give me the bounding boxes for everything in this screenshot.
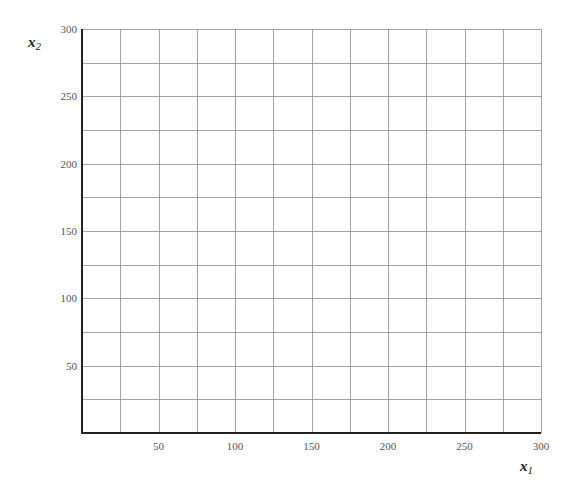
x-tick-label: 250 bbox=[456, 440, 473, 452]
y-axis-label: x2 bbox=[27, 34, 42, 52]
y-tick-label: 50 bbox=[66, 360, 78, 372]
y-tick-label: 200 bbox=[61, 158, 78, 170]
y-tick-label: 250 bbox=[61, 90, 78, 102]
graph-paper-chart: 50100150200250300 50100150200250300 x2 x… bbox=[0, 0, 573, 497]
x-tick-label: 50 bbox=[153, 440, 165, 452]
y-tick-label: 100 bbox=[61, 292, 78, 304]
y-tick-label: 300 bbox=[61, 23, 78, 35]
x-tick-label: 100 bbox=[227, 440, 244, 452]
x-tick-label: 150 bbox=[303, 440, 320, 452]
x-tick-label: 300 bbox=[533, 440, 550, 452]
grid-lines bbox=[82, 29, 542, 433]
x-tick-labels: 50100150200250300 bbox=[153, 440, 550, 452]
x-axis-label: x1 bbox=[519, 458, 533, 476]
x-tick-label: 200 bbox=[380, 440, 397, 452]
y-tick-label: 150 bbox=[61, 225, 78, 237]
y-tick-labels: 50100150200250300 bbox=[61, 23, 78, 372]
